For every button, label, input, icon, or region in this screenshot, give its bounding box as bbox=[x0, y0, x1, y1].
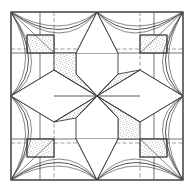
tiling-diagram bbox=[0, 0, 194, 193]
corner-square-top-right bbox=[140, 35, 167, 53]
corner-square-top-left bbox=[27, 35, 54, 53]
corner-square-bottom-left bbox=[27, 139, 54, 157]
corner-square-bottom-right bbox=[140, 139, 167, 157]
tiling-figure-root bbox=[0, 0, 194, 193]
